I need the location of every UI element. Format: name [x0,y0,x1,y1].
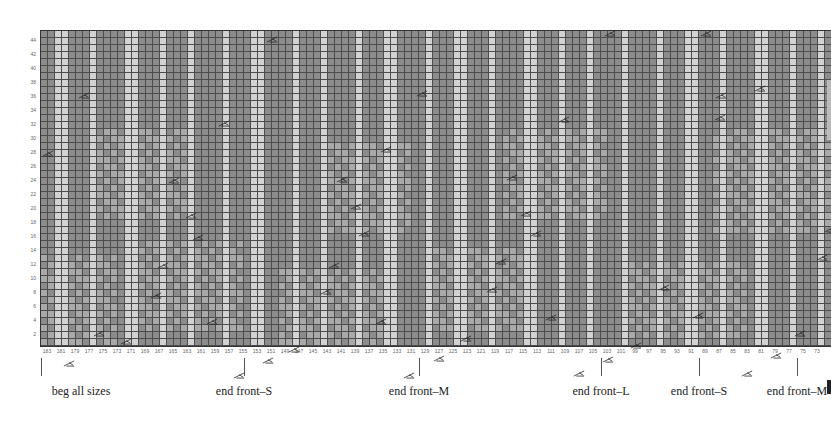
stitch-cell [482,115,489,122]
stitch-cell [552,143,559,150]
stitch-cell [545,234,552,241]
stitch-cell [671,164,678,171]
stitch-cell [587,304,594,311]
stitch-cell [398,213,405,220]
stitch-cell [48,73,55,80]
stitch-cell [769,332,776,339]
stitch-cell [790,45,797,52]
stitch-cell [398,199,405,206]
stitch-cell [55,52,62,59]
stitch-cell [300,297,307,304]
stitch-cell [174,248,181,255]
stitch-cell [111,241,118,248]
stitch-cell [573,199,580,206]
stitch-cell [202,227,209,234]
stitch-cell [783,339,790,346]
stitch-cell [643,122,650,129]
stitch-cell [622,52,629,59]
stitch-cell [671,248,678,255]
stitch-number-label: 105 [586,348,600,354]
stitch-cell [181,87,188,94]
stitch-cell [454,206,461,213]
stitch-cell [475,94,482,101]
stitch-cell [132,129,139,136]
stitch-cell [83,185,90,192]
stitch-cell [258,234,265,241]
stitch-cell [475,262,482,269]
stitch-cell [363,157,370,164]
stitch-cell [657,45,664,52]
stitch-cell [272,192,279,199]
stitch-cell [83,122,90,129]
stitch-cell [132,290,139,297]
stitch-cell [265,94,272,101]
stitch-cell [664,325,671,332]
stitch-cell [566,52,573,59]
stitch-cell [69,206,76,213]
stitch-cell [818,115,825,122]
stitch-cell [629,59,636,66]
stitch-cell [825,318,831,325]
stitch-cell [615,129,622,136]
stitch-cell [720,339,727,346]
stitch-cell [111,248,118,255]
stitch-cell [335,206,342,213]
annotation-label: end front–L [573,384,630,399]
stitch-cell [384,38,391,45]
stitch-cell [202,122,209,129]
stitch-cell [244,52,251,59]
stitch-cell [552,52,559,59]
stitch-cell [531,94,538,101]
stitch-cell [713,164,720,171]
stitch-cell [125,297,132,304]
stitch-cell [363,87,370,94]
stitch-cell [643,101,650,108]
stitch-cell [566,59,573,66]
stitch-cell [55,199,62,206]
stitch-cell [503,115,510,122]
stitch-cell [636,164,643,171]
stitch-cell [769,297,776,304]
stitch-cell [622,122,629,129]
stitch-cell [391,269,398,276]
stitch-cell [153,220,160,227]
stitch-cell [279,108,286,115]
stitch-number-label: 75 [796,348,810,354]
stitch-cell [139,129,146,136]
stitch-cell [601,87,608,94]
stitch-cell [300,332,307,339]
stitch-cell [160,45,167,52]
stitch-cell [335,213,342,220]
stitch-cell [209,101,216,108]
stitch-cell [482,52,489,59]
stitch-cell [608,318,615,325]
stitch-cell [769,164,776,171]
stitch-cell [769,143,776,150]
stitch-number-label: 85 [726,348,740,354]
stitch-cell [62,220,69,227]
stitch-cell [139,87,146,94]
stitch-cell [461,269,468,276]
stitch-cell [300,136,307,143]
stitch-cell [755,227,762,234]
stitch-cell [398,332,405,339]
stitch-cell [342,311,349,318]
stitch-cell [349,38,356,45]
stitch-cell [454,136,461,143]
stitch-cell [510,143,517,150]
stitch-cell [69,157,76,164]
stitch-cell [195,80,202,87]
stitch-cell [202,171,209,178]
stitch-cell [545,80,552,87]
stitch-cell [363,206,370,213]
stitch-cell [55,101,62,108]
stitch-cell [412,164,419,171]
stitch-cell [349,80,356,87]
stitch-cell [384,332,391,339]
stitch-cell [454,220,461,227]
stitch-cell [517,311,524,318]
stitch-cell [293,318,300,325]
stitch-cell [727,269,734,276]
stitch-cell [804,276,811,283]
stitch-cell [524,332,531,339]
